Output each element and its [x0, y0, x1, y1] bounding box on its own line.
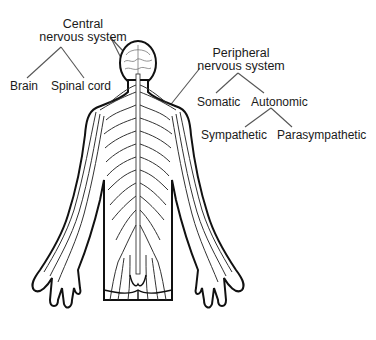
label-brain: Brain	[10, 80, 38, 93]
peripheral-nervous-system-title: Peripheral nervous system	[193, 47, 289, 73]
label-somatic: Somatic	[197, 96, 240, 109]
label-parasympathetic: Parasympathetic	[277, 129, 366, 142]
peripheral-title-line2: nervous system	[193, 60, 289, 73]
label-sympathetic: Sympathetic	[201, 129, 267, 142]
label-autonomic: Autonomic	[251, 96, 308, 109]
central-nervous-system-title: Central nervous system	[38, 18, 128, 44]
nervous-system-diagram: Central nervous system Brain Spinal cord…	[0, 0, 376, 340]
spinal-cord-icon	[136, 74, 140, 274]
central-title-line2: nervous system	[38, 31, 128, 44]
label-spinal-cord: Spinal cord	[51, 80, 111, 93]
body-illustration	[0, 0, 376, 340]
